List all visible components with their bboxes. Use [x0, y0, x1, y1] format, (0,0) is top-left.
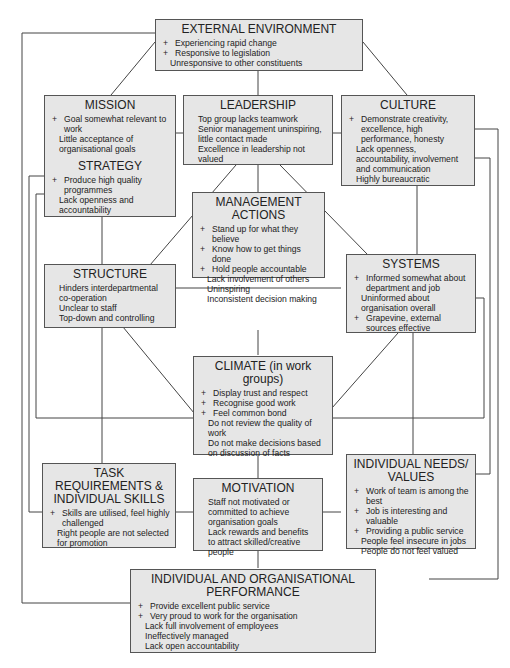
culture-list: Demonstrate creativity, excellence, high…	[347, 114, 469, 184]
list-item: Highly bureaucratic	[347, 174, 469, 184]
mission-title: MISSION	[50, 99, 170, 112]
list-item: Top group lacks teamwork	[189, 114, 327, 124]
leadership-list: Top group lacks teamwork Senior manageme…	[189, 114, 327, 164]
mission-list: Goal somewhat relevant to work Little ac…	[50, 114, 170, 154]
list-item: People do not feel valued	[352, 546, 470, 556]
structure-list: Hinders interdepartmental co-operation U…	[50, 283, 170, 323]
performance-list: Provide excellent public service Very pr…	[136, 601, 370, 651]
list-item: Feel common bond	[199, 408, 327, 418]
list-item: Unresponsive to other constituents	[161, 58, 357, 68]
box-individual-needs-values: INDIVIDUAL NEEDS/ VALUES Work of team is…	[346, 454, 476, 549]
list-item: Little acceptance of organisational goal…	[50, 134, 170, 154]
organisational-diagnosis-diagram: EXTERNAL ENVIRONMENT Experiencing rapid …	[0, 0, 510, 668]
list-item: Demonstrate creativity, excellence, high…	[347, 114, 469, 144]
management-actions-title: MANAGEMENT ACTIONS	[198, 196, 319, 222]
box-culture: CULTURE Demonstrate creativity, excellen…	[341, 95, 475, 186]
list-item: Lack rewards and benefits to attract ski…	[199, 527, 317, 557]
list-item: Experiencing rapid change	[161, 38, 357, 48]
list-item: Top-down and controlling	[50, 313, 170, 323]
box-motivation: MOTIVATION Staff not motivated or commit…	[193, 478, 323, 551]
motivation-title: MOTIVATION	[199, 482, 317, 495]
list-item: Know how to get things done	[198, 244, 319, 264]
list-item: Provide excellent public service	[136, 601, 370, 611]
list-item: Lack involvement of others	[198, 274, 319, 284]
strategy-title: STRATEGY	[50, 160, 170, 173]
list-item: Providing a public service	[352, 526, 470, 536]
box-leadership: LEADERSHIP Top group lacks teamwork Seni…	[183, 95, 333, 165]
list-item: Hold people accountable	[198, 264, 319, 274]
list-item: Senior management uninspiring, little co…	[189, 124, 327, 144]
list-item: Produce high quality programmes	[50, 175, 170, 195]
list-item: Goal somewhat relevant to work	[50, 114, 170, 134]
list-item: Staff not motivated or committed to achi…	[199, 497, 317, 527]
culture-title: CULTURE	[347, 99, 469, 112]
list-item: Uninformed about organisation overall	[352, 293, 470, 313]
motivation-list: Staff not motivated or committed to achi…	[199, 497, 317, 557]
list-item: Recognise good work	[199, 398, 327, 408]
list-item: Hinders interdepartmental co-operation	[50, 283, 170, 303]
list-item: Excellence in leadership not valued	[189, 144, 327, 164]
list-item: Unclear to staff	[50, 303, 170, 313]
list-item: Lack openness, accountability, involveme…	[347, 144, 469, 174]
strategy-list: Produce high quality programmes Lack ope…	[50, 175, 170, 215]
structure-title: STRUCTURE	[50, 268, 170, 281]
list-item: Very proud to work for the organisation	[136, 611, 370, 621]
management-actions-list: Stand up for what they believe Know how …	[198, 224, 319, 304]
systems-list: Informed somewhat about department and j…	[352, 273, 470, 333]
list-item: Inconsistent decision making	[198, 294, 319, 304]
leadership-title: LEADERSHIP	[189, 99, 327, 112]
box-systems: SYSTEMS Informed somewhat about departme…	[346, 254, 476, 333]
box-performance: INDIVIDUAL AND ORGANISATIONAL PERFORMANC…	[130, 569, 376, 653]
list-item: Lack full involvement of employees	[136, 621, 370, 631]
external-environment-list: Experiencing rapid change Responsive to …	[161, 38, 357, 68]
box-structure: STRUCTURE Hinders interdepartmental co-o…	[44, 264, 176, 328]
individual-needs-list: Work of team is among the best Job is in…	[352, 486, 470, 556]
list-item: People feel insecure in jobs	[352, 536, 470, 546]
list-item: Work of team is among the best	[352, 486, 470, 506]
list-item: Informed somewhat about department and j…	[352, 273, 470, 293]
climate-title: CLIMATE (in work groups)	[199, 360, 327, 386]
list-item: Lack open accountability	[136, 641, 370, 651]
task-requirements-list: Skills are utilised, feel highly challen…	[48, 508, 170, 548]
list-item: Skills are utilised, feel highly challen…	[48, 508, 170, 528]
list-item: Stand up for what they believe	[198, 224, 319, 244]
list-item: Right people are not selected for promot…	[48, 528, 170, 548]
box-external-environment: EXTERNAL ENVIRONMENT Experiencing rapid …	[155, 19, 363, 71]
box-management-actions: MANAGEMENT ACTIONS Stand up for what the…	[192, 192, 325, 278]
list-item: Job is interesting and valuable	[352, 506, 470, 526]
performance-title: INDIVIDUAL AND ORGANISATIONAL PERFORMANC…	[136, 573, 370, 599]
task-requirements-title: TASK REQUIREMENTS & INDIVIDUAL SKILLS	[48, 467, 170, 506]
external-environment-title: EXTERNAL ENVIRONMENT	[161, 23, 357, 36]
list-item: Display trust and respect	[199, 388, 327, 398]
box-mission-strategy: MISSION Goal somewhat relevant to work L…	[44, 95, 176, 217]
box-task-requirements: TASK REQUIREMENTS & INDIVIDUAL SKILLS Sk…	[42, 463, 176, 548]
list-item: Responsive to legislation	[161, 48, 357, 58]
list-item: Do not review the quality of work	[199, 418, 327, 438]
list-item: Uninspiring	[198, 284, 319, 294]
list-item: Do not make decisions based on discussio…	[199, 438, 327, 458]
climate-list: Display trust and respect Recognise good…	[199, 388, 327, 458]
list-item: Lack openness and accountability	[50, 195, 170, 215]
box-climate: CLIMATE (in work groups) Display trust a…	[193, 356, 333, 455]
list-item: Ineffectively managed	[136, 631, 370, 641]
individual-needs-title: INDIVIDUAL NEEDS/ VALUES	[352, 458, 470, 484]
systems-title: SYSTEMS	[352, 258, 470, 271]
list-item: Grapevine, external sources effective	[352, 313, 470, 333]
